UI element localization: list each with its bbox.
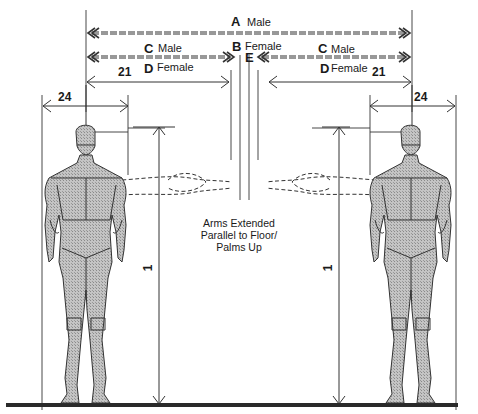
arms-extended-note: Arms Extended Parallel to Floor/ Palms U… xyxy=(184,217,294,253)
label-height-right-1: 1 xyxy=(322,265,334,272)
label-C-right-letter: C xyxy=(318,42,327,55)
label-shoulder-right-24: 24 xyxy=(414,91,427,103)
left-human-figure xyxy=(45,125,126,403)
label-C-right-text: Male xyxy=(331,44,355,55)
anthropometric-diagram: A Male B Female C Male C Male E D Female… xyxy=(0,0,478,414)
label-E-letter: E xyxy=(245,51,254,64)
label-D-left-letter: D xyxy=(144,62,153,75)
note-line-2: Parallel to Floor/ xyxy=(184,229,294,241)
label-height-left-1: 1 xyxy=(142,265,154,272)
label-C-left-text: Male xyxy=(158,43,182,54)
dimension-A-line xyxy=(88,28,410,38)
label-shoulder-left-24: 24 xyxy=(58,91,71,103)
right-human-figure xyxy=(370,125,451,403)
label-D-left-text: Female xyxy=(157,62,194,73)
dimension-1-lines xyxy=(133,127,350,404)
label-B-letter: B xyxy=(232,40,241,53)
label-D-right-text: Female xyxy=(331,63,368,74)
note-line-3: Palms Up xyxy=(184,241,294,253)
label-A-letter: A xyxy=(231,15,240,28)
label-A-text: Male xyxy=(247,17,271,28)
floor-line xyxy=(6,403,458,407)
label-D-right-letter: D xyxy=(320,62,329,75)
label-span-right-21: 21 xyxy=(372,66,385,78)
diagram-canvas xyxy=(0,0,478,414)
label-span-left-21: 21 xyxy=(118,66,131,78)
note-line-1: Arms Extended xyxy=(184,217,294,229)
label-C-left-letter: C xyxy=(144,42,153,55)
